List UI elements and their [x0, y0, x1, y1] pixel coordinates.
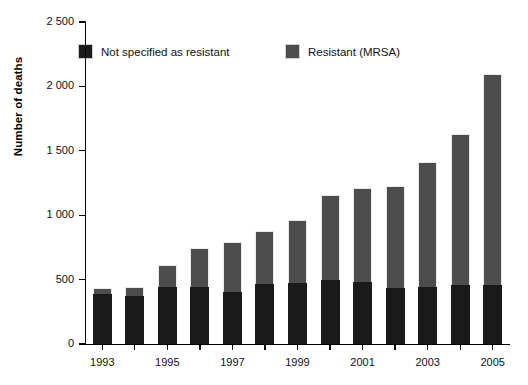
- x-tick: [264, 344, 265, 350]
- bar-1999[interactable]: [288, 220, 307, 344]
- x-tick: [492, 344, 493, 350]
- bar-1993[interactable]: [93, 288, 112, 344]
- bar-segment-resistant: [288, 220, 307, 283]
- x-tick: [297, 344, 298, 350]
- x-tick: [329, 344, 330, 350]
- bar-2002[interactable]: [386, 186, 405, 344]
- bar-segment-resistant: [451, 134, 470, 285]
- y-tick-label: 0: [18, 337, 74, 349]
- bar-segment-resistant: [255, 231, 274, 284]
- y-tick-label: 1 000: [18, 208, 74, 220]
- bar-segment-not-specified: [451, 285, 470, 344]
- x-tick-label: 1995: [142, 356, 192, 368]
- bar-segment-not-specified: [125, 296, 144, 344]
- bar-segment-not-specified: [353, 282, 372, 344]
- bar-segment-not-specified: [93, 294, 112, 344]
- chart-figure: Number of deaths Not specified as resist…: [0, 0, 528, 385]
- y-tick: [79, 150, 86, 151]
- bar-segment-resistant: [483, 74, 502, 285]
- bar-1997[interactable]: [223, 242, 242, 344]
- x-tick-label: 2003: [403, 356, 453, 368]
- bar-segment-not-specified: [288, 283, 307, 344]
- bar-segment-resistant: [158, 265, 177, 287]
- y-tick-label: 1 500: [18, 144, 74, 156]
- x-tick: [427, 344, 428, 350]
- y-tick-label: 2 000: [18, 79, 74, 91]
- x-tick: [362, 344, 363, 350]
- bar-segment-not-specified: [321, 280, 340, 344]
- bar-2004[interactable]: [451, 134, 470, 344]
- bar-segment-not-specified: [158, 287, 177, 344]
- bar-segment-resistant: [190, 248, 209, 287]
- bar-2000[interactable]: [321, 195, 340, 344]
- bar-1995[interactable]: [158, 265, 177, 344]
- y-tick: [79, 343, 86, 344]
- x-tick-label: 2001: [338, 356, 388, 368]
- y-tick: [79, 86, 86, 87]
- plot-area: 05001 0001 5002 0002 500 199319951997199…: [86, 22, 509, 344]
- x-tick-label: 2005: [468, 356, 518, 368]
- bar-segment-resistant: [125, 287, 144, 296]
- x-tick: [167, 344, 168, 350]
- bar-segment-not-specified: [190, 287, 209, 344]
- x-tick: [232, 344, 233, 350]
- bar-2005[interactable]: [483, 74, 502, 344]
- x-tick-label: 1997: [207, 356, 257, 368]
- bar-segment-not-specified: [223, 292, 242, 344]
- y-tick: [79, 21, 86, 22]
- bar-segment-not-specified: [483, 285, 502, 344]
- y-tick-label: 500: [18, 273, 74, 285]
- x-tick-label: 1993: [77, 356, 127, 368]
- bar-segment-not-specified: [255, 284, 274, 344]
- x-tick: [394, 344, 395, 350]
- bar-segment-not-specified: [418, 287, 437, 344]
- x-tick: [134, 344, 135, 350]
- bar-1994[interactable]: [125, 287, 144, 344]
- bar-2001[interactable]: [353, 188, 372, 344]
- y-tick: [79, 279, 86, 280]
- x-tick: [102, 344, 103, 350]
- y-tick-label: 2 500: [18, 15, 74, 27]
- bar-segment-resistant: [418, 162, 437, 286]
- y-tick: [79, 215, 86, 216]
- bar-1998[interactable]: [255, 231, 274, 344]
- bar-segment-resistant: [321, 195, 340, 279]
- y-axis-line: [85, 22, 86, 345]
- bar-segment-resistant: [223, 242, 242, 292]
- bar-segment-resistant: [353, 188, 372, 283]
- bar-2003[interactable]: [418, 162, 437, 344]
- x-tick: [460, 344, 461, 350]
- bar-segment-resistant: [386, 186, 405, 288]
- x-tick-label: 1999: [273, 356, 323, 368]
- x-tick: [199, 344, 200, 350]
- bar-1996[interactable]: [190, 248, 209, 344]
- bar-segment-not-specified: [386, 288, 405, 344]
